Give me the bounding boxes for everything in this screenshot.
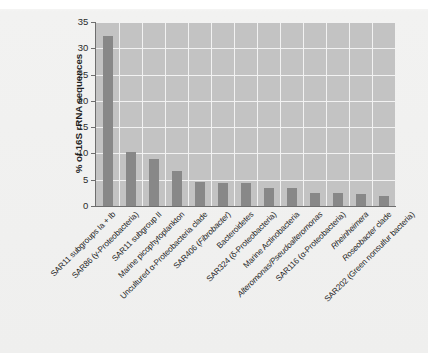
bar — [149, 159, 159, 206]
bar — [103, 36, 113, 206]
x-axis-label: Bacteroidetes — [214, 210, 254, 250]
y-tick-label: 35 — [48, 16, 88, 27]
bar — [287, 188, 297, 206]
x-axis-label: SAR324 (δ-Proteobacteria) — [204, 210, 278, 284]
y-tick-mark — [91, 206, 95, 207]
plot-area — [96, 22, 395, 206]
x-axis-label: Marine picophytoplankton — [116, 210, 186, 280]
y-tick-mark — [91, 127, 95, 128]
x-axis-line — [95, 206, 396, 207]
x-axis-label: Uncultured α-Proteobacteria clade — [118, 210, 209, 301]
x-axis-label: Roseobacter clade — [340, 210, 393, 263]
x-axis-label: SAR11 subgroups Ia + Ib — [49, 210, 117, 278]
bar — [264, 188, 274, 206]
y-tick-label: 0 — [48, 200, 88, 211]
bar — [218, 183, 228, 206]
bar — [126, 152, 136, 206]
x-axis-label: SAR406 (Fibrobacter) — [171, 210, 232, 271]
x-axis-label: Rheinheimera — [329, 210, 370, 251]
y-tick-mark — [91, 75, 95, 76]
y-tick-mark — [91, 153, 95, 154]
figure-page: 05101520253035 % of 16S rRNA sequences S… — [0, 0, 428, 353]
bar — [333, 193, 343, 206]
y-axis-line — [95, 22, 96, 207]
bar-chart: 05101520253035 % of 16S rRNA sequences S… — [0, 0, 428, 353]
bar — [310, 193, 320, 206]
x-axis-label: Alteromonas/Pseudoalteromonas — [235, 210, 324, 299]
y-tick-mark — [91, 22, 95, 23]
x-axis-label: SAR116 (α-Proteobacteria) — [274, 210, 347, 283]
y-axis-title: % of 16S rRNA sequences — [73, 29, 84, 199]
x-axis-label: Marine Actinobacteria — [241, 210, 301, 270]
x-axis-label: SAR86 (γ-Proteobacteria) — [70, 210, 140, 280]
bar-series — [96, 22, 395, 206]
bar — [172, 171, 182, 206]
bar — [356, 194, 366, 206]
x-axis-label: SAR202 (Green nonsulfur bacteria) — [322, 210, 416, 304]
x-axis-label: SAR11 subgroup II — [110, 210, 163, 263]
y-tick-mark — [91, 101, 95, 102]
bar — [241, 183, 251, 206]
bar — [379, 196, 389, 207]
y-tick-mark — [91, 48, 95, 49]
bar — [195, 182, 205, 206]
y-tick-mark — [91, 180, 95, 181]
